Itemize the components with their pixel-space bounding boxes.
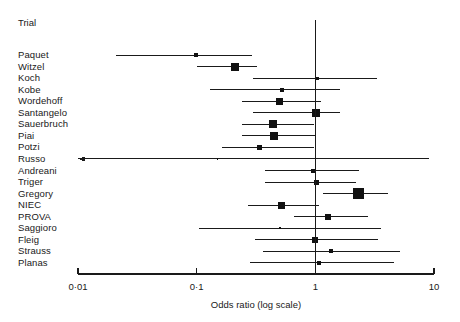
- forest-rows-layer: [78, 53, 429, 265]
- x-tick-label: 10: [429, 282, 440, 292]
- effect-estimate-marker: [270, 132, 278, 140]
- trial-label: Witzel: [18, 62, 44, 72]
- trial-label: Gregory: [18, 189, 53, 199]
- effect-estimate-marker: [280, 88, 284, 92]
- effect-estimate-marker: [217, 158, 219, 160]
- effect-estimate-marker: [312, 109, 320, 117]
- trial-label: PROVA: [18, 212, 51, 222]
- effect-estimate-marker: [311, 169, 315, 173]
- effect-estimate-marker: [317, 261, 321, 265]
- effect-estimate-marker: [231, 63, 239, 71]
- trial-label: Planas: [18, 258, 48, 268]
- trial-label: Andreani: [18, 166, 57, 176]
- effect-estimate-marker: [353, 188, 364, 199]
- trial-label: Strauss: [18, 246, 51, 256]
- column-header-trial: Trial: [18, 18, 36, 28]
- trial-label: Koch: [18, 73, 40, 83]
- trial-label: Piai: [18, 131, 34, 141]
- trial-label: Santangelo: [18, 108, 67, 118]
- effect-estimate-marker: [278, 202, 285, 209]
- effect-estimate-marker: [257, 145, 262, 150]
- trial-label: Fleig: [18, 235, 39, 245]
- forest-plot-canvas: [0, 0, 460, 322]
- trial-label: Kobe: [18, 85, 41, 95]
- x-tick-label: 0·01: [68, 282, 87, 292]
- trial-label: Paquet: [18, 50, 49, 60]
- trial-label: Triger: [18, 177, 43, 187]
- effect-estimate-marker: [276, 98, 283, 105]
- trial-label: NIEC: [18, 200, 41, 210]
- effect-estimate-marker: [329, 249, 333, 253]
- effect-estimate-marker: [279, 227, 281, 229]
- axis-title: Odds ratio (log scale): [211, 300, 301, 310]
- trial-label: Russo: [18, 154, 45, 164]
- effect-estimate-marker: [325, 214, 331, 220]
- x-tick-label: 0·1: [190, 282, 204, 292]
- trial-label: Sauerbruch: [18, 119, 68, 129]
- forest-plot: Trial PaquetWitzelKochKobeWordehoffSanta…: [0, 0, 460, 322]
- effect-estimate-marker: [316, 77, 319, 80]
- trial-label: Saggioro: [18, 223, 57, 233]
- x-tick-label: 1: [313, 282, 318, 292]
- trial-label: Wordehoff: [18, 96, 62, 106]
- trial-label: Potzi: [18, 142, 40, 152]
- effect-estimate-marker: [269, 120, 277, 128]
- arrow-left-icon: [78, 156, 85, 161]
- effect-estimate-marker: [194, 53, 198, 57]
